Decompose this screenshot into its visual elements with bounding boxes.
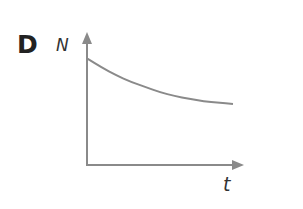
y-axis bbox=[82, 32, 92, 165]
data-curve bbox=[87, 58, 233, 104]
chart-plot bbox=[0, 0, 303, 209]
x-axis bbox=[86, 160, 244, 170]
y-axis-arrow-icon bbox=[82, 32, 92, 44]
x-axis-arrow-icon bbox=[232, 160, 244, 170]
